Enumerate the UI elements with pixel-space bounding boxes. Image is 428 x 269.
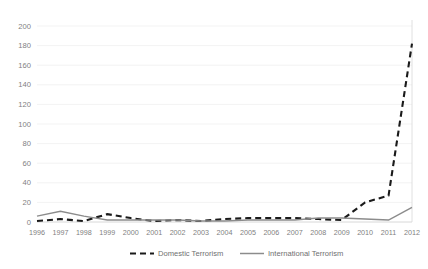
data-series-group (37, 44, 412, 221)
x-tick-label: 2007 (287, 228, 303, 237)
gridlines-group (37, 26, 412, 222)
x-tick-label: 2003 (193, 228, 209, 237)
x-tick-label: 2000 (123, 228, 139, 237)
chart-canvas: 020406080100120140160180200 199619971998… (0, 0, 428, 269)
y-tick-label: 100 (18, 120, 31, 129)
x-tick-label: 2011 (381, 228, 396, 237)
chart-legend: Domestic TerrorismInternational Terroris… (130, 249, 343, 258)
x-tick-label: 2001 (146, 228, 162, 237)
x-tick-label: 2009 (334, 228, 350, 237)
y-tick-label: 120 (18, 100, 31, 109)
y-tick-label: 200 (18, 22, 31, 31)
legend-label-domestic-terrorism: Domestic Terrorism (158, 249, 223, 258)
y-tick-label: 20 (23, 198, 31, 207)
x-axis-tick-labels: 1996199719981999200020012002200320042005… (29, 228, 420, 237)
line-chart: 020406080100120140160180200 199619971998… (0, 0, 428, 269)
x-tick-label: 2010 (357, 228, 373, 237)
y-tick-label: 180 (18, 41, 31, 50)
y-tick-label: 60 (23, 159, 31, 168)
x-tick-label: 2006 (263, 228, 279, 237)
legend-label-international-terrorism: International Terrorism (268, 249, 343, 258)
series-line-domestic-terrorism (37, 44, 412, 221)
x-tick-label: 2002 (170, 228, 186, 237)
x-tick-label: 1996 (29, 228, 45, 237)
x-tick-label: 2008 (310, 228, 326, 237)
y-tick-label: 40 (23, 178, 31, 187)
x-tick-label: 1999 (99, 228, 115, 237)
y-axis-tick-labels: 020406080100120140160180200 (18, 22, 31, 227)
y-tick-label: 140 (18, 80, 31, 89)
x-tick-label: 2012 (404, 228, 420, 237)
y-tick-label: 0 (27, 218, 31, 227)
axis-lines (37, 20, 412, 222)
x-tick-label: 1998 (76, 228, 92, 237)
x-tick-label: 2004 (217, 228, 233, 237)
x-tick-label: 1997 (52, 228, 68, 237)
y-tick-label: 160 (18, 61, 31, 70)
x-tick-label: 2005 (240, 228, 256, 237)
y-tick-label: 80 (23, 139, 31, 148)
